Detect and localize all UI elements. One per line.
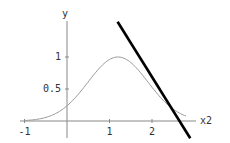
- x-tick-label: -1: [19, 126, 31, 137]
- y-tick-label: 1: [55, 51, 61, 62]
- x-axis-label: x2: [200, 115, 212, 126]
- chart-plot: -112 0.51 x2 y: [0, 0, 230, 143]
- x-ticks: -112: [19, 119, 156, 137]
- x-tick-label: 2: [149, 126, 155, 137]
- y-tick-label: 0.5: [43, 83, 61, 94]
- y-ticks: 0.51: [43, 51, 69, 94]
- x-tick-label: 1: [107, 126, 113, 137]
- y-axis-label: y: [62, 8, 68, 19]
